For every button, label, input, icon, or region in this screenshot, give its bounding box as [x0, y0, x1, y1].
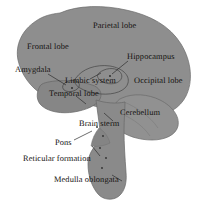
label-parietal-lobe: Parietal lobe — [93, 21, 136, 30]
reticular-formation-dot — [99, 147, 101, 149]
label-amygdala: Amygdala — [15, 65, 51, 74]
label-brain-sterm: Brain sterm — [79, 119, 119, 128]
leader-line-pons — [74, 131, 92, 140]
label-hippocampus: Hippocampus — [127, 52, 175, 61]
label-reticular-formation: Reticular formation — [23, 154, 91, 163]
label-limbic-system: Limbic system — [65, 76, 116, 85]
reticular-formation-dot — [105, 157, 107, 159]
label-frontal-lobe: Frontal lobe — [27, 42, 69, 51]
reticular-formation-dot — [102, 135, 104, 137]
label-medulla-oblongata: Medulla oblongata — [54, 175, 119, 184]
label-pons: Pons — [55, 138, 72, 147]
reticular-formation-dot — [101, 167, 103, 169]
label-temporal-lobe: Temporal lobe — [49, 89, 99, 98]
label-occipital-lobe: Occipital lobe — [134, 76, 183, 85]
label-cerebellum: Cerebellum — [120, 108, 160, 117]
brain-diagram-canvas: Parietal lobe Frontal lobe Hippocampus A… — [0, 0, 210, 208]
